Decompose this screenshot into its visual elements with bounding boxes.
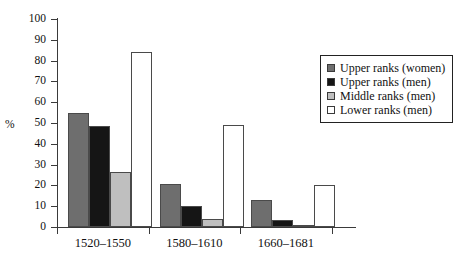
y-tick-label-wrap: 70 — [14, 75, 46, 86]
x-axis-line — [57, 227, 356, 228]
legend-swatch-icon — [327, 92, 335, 100]
y-tick-mark — [51, 206, 57, 207]
y-tick-label-wrap: 0 — [14, 221, 46, 232]
y-tick-label-wrap: 20 — [14, 179, 46, 190]
x-tick-mark — [240, 228, 241, 234]
bar — [110, 172, 131, 227]
legend-swatch-icon — [327, 78, 335, 86]
bar — [293, 225, 314, 227]
x-axis-group-label: 1660–1681 — [240, 236, 332, 251]
y-tick-label-wrap: 50 — [14, 117, 46, 128]
y-tick-label-wrap: 30 — [14, 159, 46, 170]
y-tick-label-wrap: 80 — [14, 55, 46, 66]
bar-chart: % 1009080706050403020100 1520–15501580–1… — [0, 0, 472, 263]
legend-item-label: Upper ranks (women) — [340, 62, 445, 75]
y-tick-label: 90 — [20, 34, 46, 45]
chart-legend: Upper ranks (women)Upper ranks (men)Midd… — [320, 55, 453, 123]
y-tick-label: 80 — [20, 55, 46, 66]
bar — [314, 185, 335, 227]
bar — [131, 52, 152, 227]
y-tick-label-wrap: 60 — [14, 96, 46, 107]
y-tick-label-wrap: 40 — [14, 138, 46, 149]
y-tick-mark — [51, 61, 57, 62]
x-tick-mark — [149, 228, 150, 234]
y-tick-label: 100 — [20, 13, 46, 24]
y-tick-label: 50 — [20, 117, 46, 128]
bar — [272, 220, 293, 227]
y-tick-mark — [51, 123, 57, 124]
y-tick-label: 10 — [20, 200, 46, 211]
x-tick-mark — [57, 228, 58, 234]
y-tick-mark — [51, 81, 57, 82]
bar — [223, 125, 244, 227]
y-tick-mark — [51, 165, 57, 166]
x-tick-mark — [332, 228, 333, 234]
legend-swatch-icon — [327, 64, 335, 72]
legend-item: Upper ranks (men) — [327, 75, 445, 89]
x-axis-group-label: 1580–1610 — [149, 236, 241, 251]
y-axis-line — [57, 18, 58, 228]
y-tick-label: 30 — [20, 159, 46, 170]
y-tick-label: 20 — [20, 179, 46, 190]
y-tick-label-wrap: 100 — [14, 13, 46, 24]
bar — [251, 200, 272, 227]
bar — [202, 219, 223, 227]
bar — [89, 126, 110, 227]
y-tick-label: 40 — [20, 138, 46, 149]
y-tick-mark — [51, 102, 57, 103]
bar — [68, 113, 89, 227]
y-tick-mark — [51, 185, 57, 186]
y-tick-mark — [51, 19, 57, 20]
y-tick-label: 60 — [20, 96, 46, 107]
y-tick-label-wrap: 90 — [14, 34, 46, 45]
legend-item: Middle ranks (men) — [327, 89, 445, 103]
y-tick-label: 70 — [20, 75, 46, 86]
legend-swatch-icon — [327, 106, 335, 114]
legend-item: Upper ranks (women) — [327, 61, 445, 75]
y-tick-label: 0 — [20, 221, 46, 232]
legend-item-label: Middle ranks (men) — [340, 90, 435, 103]
legend-item: Lower ranks (men) — [327, 103, 445, 117]
y-tick-label-wrap: 10 — [14, 200, 46, 211]
legend-item-label: Lower ranks (men) — [340, 104, 432, 117]
y-tick-mark — [51, 144, 57, 145]
y-tick-mark — [51, 40, 57, 41]
legend-item-label: Upper ranks (men) — [340, 76, 431, 89]
bar — [160, 184, 181, 227]
bar — [181, 206, 202, 227]
x-axis-group-label: 1520–1550 — [57, 236, 149, 251]
